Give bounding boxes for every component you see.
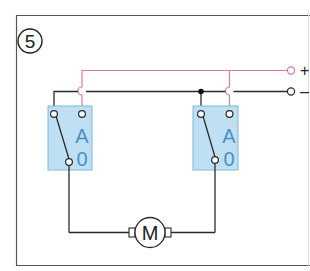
motor: M [129,218,171,248]
switch-right-label-0: 0 [223,148,234,170]
negative-label: – [300,83,309,100]
figure-number: 5 [25,31,36,52]
positive-wire [78,71,287,109]
switch-right: A 0 [193,106,238,233]
circuit-diagram: 5 + – A 0 A 0 [0,0,310,271]
switch-left-label-a: A [75,125,89,147]
motor-label: M [142,222,159,244]
switch-left: A 0 [48,106,92,233]
positive-label: + [300,62,309,79]
positive-terminal: + [287,62,309,79]
negative-terminal: – [287,83,309,100]
switch-right-label-a: A [222,125,236,147]
junction-dot [198,89,204,95]
figure-number-badge: 5 [18,29,42,53]
switch-left-label-0: 0 [76,148,87,170]
